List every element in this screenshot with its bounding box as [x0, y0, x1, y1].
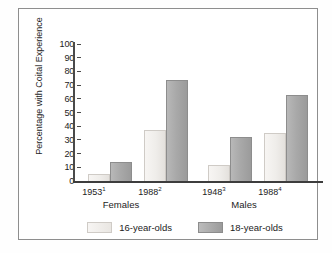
x-tick-label-1988-males: 19884: [244, 186, 296, 197]
chart-legend: 16-year-olds 18-year-olds: [19, 222, 332, 233]
legend-label: 18-year-olds: [230, 222, 283, 233]
bar-females-1988-16-year-olds[interactable]: [144, 130, 166, 181]
y-tick-30: 30: [19, 135, 81, 145]
x-tick-footnote: 2: [158, 186, 161, 192]
bar-males-1988-18-year-olds[interactable]: [286, 95, 308, 181]
bar-males-1948-18-year-olds[interactable]: [230, 137, 252, 181]
y-tick-40: 40: [19, 121, 81, 131]
y-tick-20: 20: [19, 149, 81, 159]
y-tick-label: 100: [60, 39, 74, 49]
bar-males-1948-16-year-olds[interactable]: [208, 165, 230, 181]
x-tick-year: 1988: [258, 187, 278, 197]
chart-frame: Percentage with Coital Experience 100 90…: [18, 8, 318, 240]
legend-label: 16-year-olds: [119, 222, 172, 233]
y-tick-50: 50: [19, 108, 81, 118]
legend-item-18-year-olds[interactable]: 18-year-olds: [198, 222, 283, 233]
x-tick-year: 1988: [138, 187, 158, 197]
bar-females-1953-18-year-olds[interactable]: [110, 162, 132, 181]
legend-swatch-icon: [87, 222, 112, 233]
group-label-males: Males: [199, 199, 289, 210]
bar-males-1988-16-year-olds[interactable]: [264, 133, 286, 181]
y-tick-10: 10: [19, 162, 81, 172]
legend-item-16-year-olds[interactable]: 16-year-olds: [87, 222, 172, 233]
x-tick-footnote: 1: [102, 186, 105, 192]
figure-canvas: Percentage with Coital Experience 100 90…: [0, 0, 332, 253]
x-tick-label-1988-females: 19882: [124, 186, 176, 197]
x-tick-label-1948: 19483: [188, 186, 240, 197]
x-axis-line: [73, 181, 323, 183]
y-tick-90: 90: [19, 53, 81, 63]
x-tick-year: 1948: [202, 187, 222, 197]
y-tick-0: 0: [19, 176, 81, 186]
plot-area: [74, 44, 322, 181]
x-tick-footnote: 3: [222, 186, 225, 192]
x-tick-year: 1953: [82, 187, 102, 197]
y-tick-60: 60: [19, 94, 81, 104]
x-tick-label-1953: 19531: [68, 186, 120, 197]
x-tick-footnote: 4: [278, 186, 281, 192]
y-tick-70: 70: [19, 80, 81, 90]
bar-females-1953-16-year-olds[interactable]: [88, 174, 110, 181]
y-tick-100: 100: [19, 39, 81, 49]
bar-females-1988-18-year-olds[interactable]: [166, 80, 188, 181]
group-label-females: Females: [76, 199, 166, 210]
y-tick-80: 80: [19, 66, 81, 76]
legend-swatch-icon: [198, 222, 223, 233]
